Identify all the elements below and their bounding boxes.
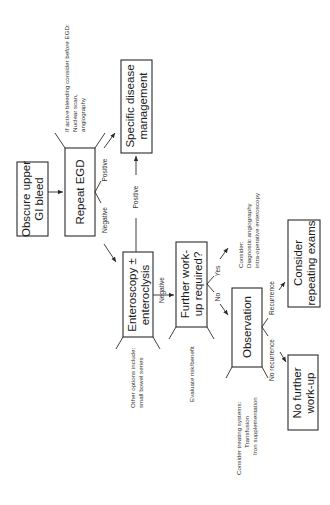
node-text: up required? <box>192 252 204 317</box>
svg-text:Consider:: Consider: <box>237 241 244 268</box>
svg-text:intra-operative enteroscopy: intra-operative enteroscopy <box>253 192 260 268</box>
flowchart: Obscure upper GI bleed Repeat EGD If act… <box>0 0 330 505</box>
node-text: work-up <box>304 373 316 415</box>
note-bracket <box>207 327 214 339</box>
note-evaluate: Evaluate risk/benefit <box>188 346 195 402</box>
node-observation: Observation <box>232 288 262 367</box>
svg-text:small bowel series: small bowel series <box>137 357 144 408</box>
branch-line <box>207 284 214 292</box>
edge-to-consider-repeat <box>279 282 285 290</box>
edge-yes-to-consider <box>220 248 228 259</box>
svg-text:Iron supplementation: Iron supplementation <box>251 397 258 455</box>
node-text: Repeat EGD <box>74 159 86 224</box>
node-enteroscopy: Enteroscopy ± enteroclysis <box>123 252 153 337</box>
branch-line <box>207 276 214 284</box>
node-text: Enteroscopy ± <box>126 258 138 331</box>
edge-no-to-observation <box>220 304 228 315</box>
node-text: Consider <box>292 240 304 286</box>
branch-line <box>262 327 268 336</box>
edge-egd-to-entero <box>104 244 116 262</box>
note-other-options: Other options include: small bowel serie… <box>129 348 144 408</box>
svg-text:Diagnostic angiography: Diagnostic angiography <box>245 202 252 268</box>
note-bracket <box>169 327 176 339</box>
edge-label-no-recurrence: No recurrence <box>268 339 275 381</box>
node-text: repeating exams <box>305 220 317 305</box>
node-text: Observation <box>241 296 253 358</box>
edge-label-negative: Negative <box>158 277 166 303</box>
node-text: GI bleed <box>33 177 45 220</box>
svg-text:If active bleeding consider be: If active bleeding consider before EGD: <box>63 24 70 132</box>
note-consider-treating: Consider treating systems: Transfusion I… <box>235 397 258 475</box>
note-active-bleeding: If active bleeding consider before EGD: … <box>63 24 86 132</box>
note-consider-diagnostic: Consider: Diagnostic angiography intra-o… <box>237 192 260 268</box>
edge-label-positive: Positive <box>132 185 139 208</box>
svg-text:Evaluate risk/benefit: Evaluate risk/benefit <box>188 346 195 402</box>
node-consider-repeating-exams: Consider repeating exams <box>288 220 320 307</box>
note-bracket <box>95 133 105 148</box>
note-bracket <box>226 367 232 378</box>
svg-text:Other options include:: Other options include: <box>129 348 136 408</box>
node-no-further-workup: No further work-up <box>288 355 318 430</box>
branch-line <box>262 318 268 327</box>
note-bracket <box>55 133 65 148</box>
node-further-workup: Further work- up required? <box>176 242 207 327</box>
node-repeat-egd: Repeat EGD <box>65 148 95 236</box>
note-bracket <box>153 337 160 349</box>
edge-to-no-further <box>280 352 286 362</box>
svg-text:Consider treating systems:: Consider treating systems: <box>235 401 242 475</box>
edge-egd-to-mgmt <box>104 133 115 148</box>
edge-label-recurrence: Recurrence <box>268 281 275 315</box>
branch-line <box>95 181 101 192</box>
node-text: Further work- <box>179 250 191 319</box>
note-bracket <box>116 337 123 349</box>
node-text: management <box>137 72 149 140</box>
node-text: Obscure upper <box>20 161 32 237</box>
branch-line <box>95 192 101 203</box>
node-obscure-upper-gi-bleed: Obscure upper GI bleed <box>17 161 48 237</box>
edge-label-yes: Yes <box>214 265 221 276</box>
node-text: enteroclysis <box>139 264 151 325</box>
edge-label-positive: Positive <box>101 158 108 181</box>
svg-text:Transfusion: Transfusion <box>243 415 250 448</box>
node-text: Specific disease <box>124 64 136 147</box>
node-text: No further <box>291 367 303 418</box>
svg-text:angiography: angiography <box>79 97 86 132</box>
svg-text:Nuclear scan,: Nuclear scan, <box>71 94 78 132</box>
node-specific-disease-management: Specific disease management <box>121 60 152 153</box>
edge-label-negative: Negative <box>101 207 109 233</box>
edge-label-no: No <box>214 292 221 301</box>
